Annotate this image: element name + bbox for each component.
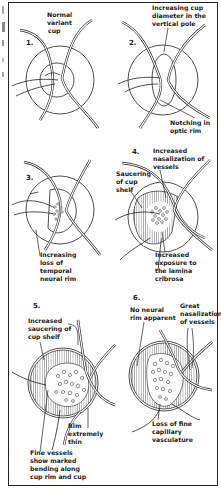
panel-2-label-line1: Increasing cup <box>152 4 204 12</box>
panel-1-label-line2: variant <box>47 19 72 26</box>
panel-5-label-line7: Fine vessels <box>30 449 73 456</box>
panel-2-label-line3: vertical pole <box>152 20 195 28</box>
panel-6-label-line2: rim apparent <box>130 314 176 322</box>
panel-3-label-line2: loss of <box>40 259 63 266</box>
panel-5-label-line8: show marked <box>30 457 76 464</box>
panel-6-label-line1: No neural <box>130 306 164 313</box>
panel-5-label-line2: saucering of <box>28 325 72 333</box>
panel-4-label-line3: vessels <box>153 163 179 170</box>
cup-outline <box>152 54 176 106</box>
panel-4-label-line9: the lamina <box>155 267 192 274</box>
panel-5-label-line3: cup shelf <box>28 333 60 341</box>
panel-4-label-line10: cribrosa <box>155 275 183 282</box>
panel-5-label-line5: extremely <box>68 430 103 438</box>
panel-4: 4. Increased nasalization of vessels Sau… <box>115 147 212 282</box>
panel-2: 2. Increasing cup diameter in the vertic… <box>118 4 210 135</box>
panel-5-label-line10: cup rim and cup <box>30 473 87 481</box>
panel-6-label-line5: of vessels <box>180 318 215 325</box>
panel-3-number: 3. <box>26 174 34 182</box>
panel-5-label-line1: Increased <box>28 317 62 324</box>
panel-3-label-line3: temporal <box>40 267 72 275</box>
panel-1-number: 1. <box>26 39 34 47</box>
panel-6-label-line6: Loss of fine <box>152 420 192 427</box>
panel-4-label-line6: shelf <box>116 186 133 193</box>
panel-4-label-line5: of cup <box>116 178 138 186</box>
panel-5-label-line6: thin <box>68 438 82 445</box>
panel-2-label-line4: Notching in <box>170 119 210 127</box>
panel-4-number: 4. <box>132 148 140 156</box>
panel-4-label-line7: Increased <box>155 251 189 258</box>
panel-3: 3. Increasing loss of temporal neural ri… <box>12 160 100 282</box>
panel-4-label-line4: Saucering <box>116 170 151 178</box>
panel-6-number: 6. <box>133 294 141 302</box>
panel-5: 5. Increased saucering of cup shelf Rim … <box>12 302 115 481</box>
panel-5-number: 5. <box>33 302 41 310</box>
panel-5-label-line4: Rim <box>68 422 81 429</box>
panel-5-label-line9: bending along <box>30 465 80 473</box>
panel-1-label-line3: cup <box>48 27 61 35</box>
panel-2-label-line5: optic rim <box>170 127 201 135</box>
panel-6-label-line3: Great <box>180 302 200 309</box>
optic-disc-diagram: 1. Normal variant cup 2. Increasing cup … <box>0 0 221 490</box>
panel-6: 6. No neural rim apparent Great nasaliza… <box>129 294 221 443</box>
panel-4-label-line1: Increased <box>153 147 187 154</box>
panel-1-label-line1: Normal <box>47 11 72 18</box>
panel-3-label-line1: Increasing <box>40 251 76 259</box>
panel-6-label-line7: capillary <box>152 428 182 436</box>
panel-2-number: 2. <box>129 39 137 47</box>
panel-1: 1. Normal variant cup <box>12 11 98 128</box>
panel-4-label-line8: exposure to <box>155 259 197 267</box>
panel-2-label-line2: diameter in the <box>152 12 206 19</box>
panel-3-label-line4: neural rim <box>40 275 76 282</box>
panel-6-label-line4: nasalization <box>180 310 221 317</box>
panel-6-label-line8: vasculature <box>152 436 193 443</box>
panel-4-label-line2: nasalization of <box>153 155 205 162</box>
